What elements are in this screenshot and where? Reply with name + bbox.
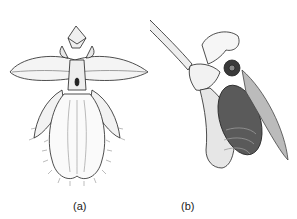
orchid-with-bee-illustration xyxy=(150,0,297,195)
panel-label-a: (a) xyxy=(73,200,86,212)
panel-label-b: (b) xyxy=(181,200,194,212)
orchid-flower-illustration xyxy=(0,0,150,195)
